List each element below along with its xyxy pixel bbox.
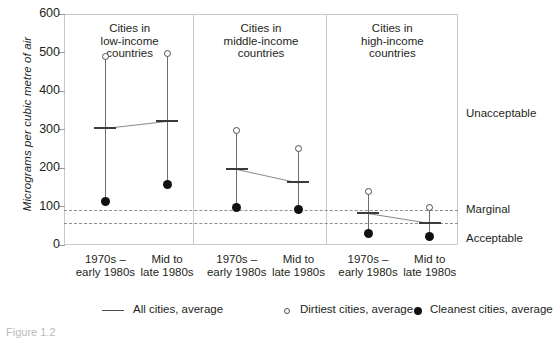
x-axis-tick-label: Mid tolate 1980s (258, 253, 338, 278)
legend-label: Cleanest cities, average (430, 303, 553, 315)
panel-title-line: middle-income (195, 35, 326, 48)
panel-title-line: countries (64, 47, 195, 60)
mean-marker-all-cities (226, 168, 248, 170)
figure-caption: Figure 1.2 (6, 326, 56, 338)
threshold-label-marginal: Marginal (466, 203, 510, 215)
marker-dirtiest-cities (426, 204, 433, 211)
marker-cleanest-cities (364, 229, 373, 238)
x-axis-tick-label: Mid tolate 1980s (127, 253, 207, 278)
y-axis-tick-label: 500 (12, 46, 60, 59)
y-axis-tick-label: 100 (12, 200, 60, 213)
marker-cleanest-cities (163, 180, 172, 189)
mean-marker-all-cities (287, 181, 309, 183)
threshold-line-marginal (64, 210, 458, 211)
y-axis-tick-label: 300 (12, 123, 60, 136)
mean-marker-all-cities (156, 120, 178, 122)
panel-title-line: Cities in (327, 22, 458, 35)
panel-title-2: Cities inmiddle-incomecountries (195, 22, 326, 60)
zone-label-unacceptable: Unacceptable (466, 107, 536, 119)
x-axis-tick-label-line: late 1980s (390, 266, 470, 279)
legend-label: All cities, average (133, 303, 223, 315)
x-axis-tick-label-line: Mid to (258, 253, 338, 266)
marker-dirtiest-cities (102, 53, 109, 60)
legend-line-icon (102, 310, 124, 311)
mean-marker-all-cities (357, 212, 379, 214)
marker-cleanest-cities (294, 205, 303, 214)
marker-dirtiest-cities (365, 188, 372, 195)
range-whisker (298, 149, 299, 209)
y-axis-tick-label: 400 (12, 84, 60, 97)
panel-title-line: low-income (64, 35, 195, 48)
mean-marker-all-cities (419, 222, 441, 224)
panel-title-line: Cities in (195, 22, 326, 35)
threshold-line-acceptable (64, 223, 458, 224)
x-axis-tick-label-line: late 1980s (127, 266, 207, 279)
panel-title-3: Cities inhigh-incomecountries (327, 22, 458, 60)
legend-open-circle-icon (284, 308, 290, 314)
x-axis-tick-label-line: late 1980s (258, 266, 338, 279)
marker-dirtiest-cities (164, 50, 171, 57)
panel-title-1: Cities inlow-incomecountries (64, 22, 195, 60)
legend-filled-circle-icon (414, 307, 422, 315)
panel-title-line: Cities in (64, 22, 195, 35)
y-axis-tick-label: 200 (12, 161, 60, 174)
legend: All cities, averageDirtiest cities, aver… (64, 303, 484, 319)
y-axis-tick-label: 600 (12, 7, 60, 20)
mean-marker-all-cities (94, 127, 116, 129)
range-whisker (105, 56, 106, 202)
threshold-label-acceptable: Acceptable (466, 232, 523, 244)
legend-label: Dirtiest cities, average (300, 303, 413, 315)
panel-title-line: high-income (327, 35, 458, 48)
x-axis-tick-label-line: Mid to (127, 253, 207, 266)
y-axis-tick-label: 0 (12, 238, 60, 251)
panel-title-line: countries (327, 47, 458, 60)
x-axis-tick-label: Mid tolate 1980s (390, 253, 470, 278)
panel-title-line: countries (195, 47, 326, 60)
x-axis-tick-label-line: Mid to (390, 253, 470, 266)
